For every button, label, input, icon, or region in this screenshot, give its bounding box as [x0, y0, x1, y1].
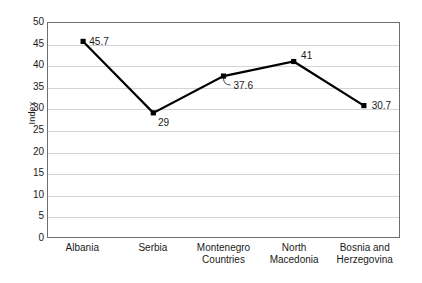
data-point-marker[interactable]: [81, 39, 86, 44]
x-tick-line1: Montenegro: [197, 242, 250, 253]
data-point-label: 41: [301, 51, 312, 61]
data-point-label: 45.7: [89, 37, 108, 47]
y-tick-label: 10: [0, 190, 44, 200]
y-tick-label: 15: [0, 168, 44, 178]
x-tick-line1: Albania: [66, 242, 99, 253]
data-series-line: [48, 23, 399, 237]
y-tick-label: 25: [0, 125, 44, 135]
x-tick-line1: Bosnia and: [340, 242, 390, 253]
y-tick-label: 45: [0, 39, 44, 49]
y-axis-tick-labels: 50 45 40 35 30 25 20 15 10 5 0: [0, 0, 44, 283]
data-point-label: 37.6: [234, 81, 253, 91]
x-tick-label-montenegro: Montenegro: [183, 242, 264, 254]
x-axis-title: Countries: [47, 254, 400, 266]
plot-area: 45.72937.64130.7: [47, 22, 400, 238]
x-tick-label-serbia: Serbia: [112, 242, 193, 254]
data-point-marker[interactable]: [291, 59, 296, 64]
y-tick-label: 50: [0, 17, 44, 27]
x-tick-label-albania: Albania: [42, 242, 123, 254]
line-chart: Index 50 45 40 35 30 25 20 15 10 5 0 45.…: [0, 0, 422, 283]
data-point-marker[interactable]: [221, 73, 226, 78]
x-tick-line1: North: [282, 242, 306, 253]
y-tick-label: 40: [0, 60, 44, 70]
y-tick-label: 35: [0, 82, 44, 92]
y-tick-label: 20: [0, 147, 44, 157]
data-point-label: 29: [158, 118, 169, 128]
y-tick-label: 0: [0, 233, 44, 243]
data-point-label: 30.7: [372, 101, 391, 111]
data-point-marker[interactable]: [361, 103, 366, 108]
data-point-marker[interactable]: [151, 110, 156, 115]
y-tick-label: 30: [0, 103, 44, 113]
y-tick-label: 5: [0, 211, 44, 221]
data-label-leader-line: [224, 78, 231, 85]
x-tick-line1: Serbia: [138, 242, 167, 253]
